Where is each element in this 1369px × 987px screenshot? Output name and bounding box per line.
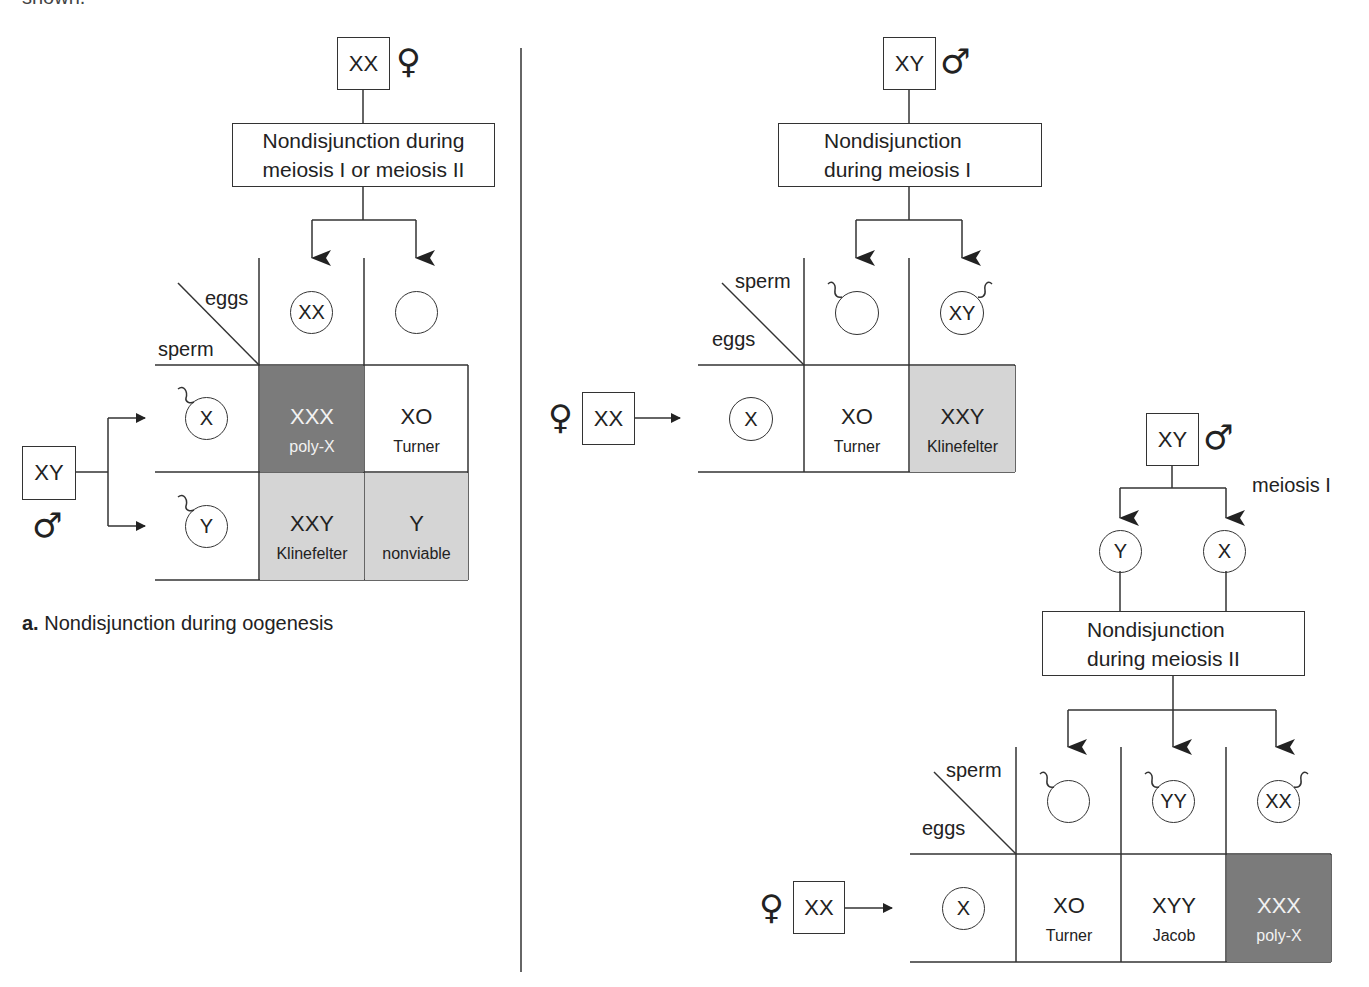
karyotype: XXX bbox=[1227, 893, 1331, 919]
karyotype: XO bbox=[365, 404, 468, 430]
process-box-meiosis-i-or-ii: Nondisjunction during meiosis I or meios… bbox=[232, 123, 495, 187]
caption-letter: a. bbox=[22, 612, 39, 634]
grid-corner-eggs: eggs bbox=[922, 817, 965, 840]
syndrome: poly-X bbox=[1227, 927, 1331, 945]
grid-corner-sperm: sperm bbox=[735, 270, 791, 293]
sperm-gamete-x: X bbox=[185, 397, 228, 440]
process-line-1: Nondisjunction bbox=[1087, 615, 1225, 644]
sperm-gamete-xx: XX bbox=[1257, 780, 1300, 823]
karyotype: XXY bbox=[260, 511, 364, 537]
egg-gamete-empty bbox=[395, 291, 438, 334]
product-y: Y bbox=[1099, 530, 1142, 573]
cell-xxx-poly-x: XXX poly-X bbox=[260, 366, 364, 472]
grid-corner-sperm: sperm bbox=[946, 759, 1002, 782]
process-line-1: Nondisjunction during bbox=[263, 126, 465, 155]
grid-corner-eggs: eggs bbox=[205, 287, 248, 310]
karyotype: XYY bbox=[1122, 893, 1226, 919]
sperm-gamete-empty bbox=[1047, 780, 1090, 823]
father-genotype-box: XY bbox=[22, 446, 76, 500]
mother-genotype-box: XX bbox=[582, 392, 635, 445]
male-symbol-icon: ♂ bbox=[940, 44, 970, 78]
caption-text: Nondisjunction during oogenesis bbox=[44, 612, 333, 634]
mother-genotype-box: XX bbox=[337, 37, 390, 90]
male-symbol-icon: ♂ bbox=[1203, 420, 1233, 454]
sperm-gamete-y: Y bbox=[185, 505, 228, 548]
product-x: X bbox=[1203, 530, 1246, 573]
syndrome: Klinefelter bbox=[260, 545, 364, 563]
sperm-gamete-empty bbox=[835, 291, 879, 335]
male-symbol-icon: ♂ bbox=[32, 508, 62, 542]
cell-xo-turner: XO Turner bbox=[1017, 855, 1121, 962]
karyotype: XO bbox=[805, 404, 909, 430]
karyotype: XXY bbox=[910, 404, 1015, 430]
grid-corner-sperm: sperm bbox=[158, 338, 214, 361]
syndrome: poly-X bbox=[260, 438, 364, 456]
process-line-2: during meiosis II bbox=[1087, 644, 1240, 673]
egg-gamete-x: X bbox=[942, 887, 985, 930]
cell-xo-turner: XO Turner bbox=[365, 366, 468, 472]
syndrome: Turner bbox=[1017, 927, 1121, 945]
cell-y-nonviable: Y nonviable bbox=[365, 473, 468, 580]
cell-xyy-jacob: XYY Jacob bbox=[1122, 855, 1226, 962]
cell-xxy-klinefelter: XXY Klinefelter bbox=[910, 366, 1015, 472]
process-box-meiosis-i: Nondisjunction during meiosis I bbox=[778, 123, 1042, 187]
syndrome: nonviable bbox=[365, 545, 468, 563]
father-genotype-box: XY bbox=[883, 37, 936, 90]
egg-gamete-xx: XX bbox=[290, 291, 333, 334]
karyotype: XXX bbox=[260, 404, 364, 430]
sperm-gamete-yy: YY bbox=[1152, 780, 1195, 823]
father-genotype-box: XY bbox=[1146, 413, 1199, 466]
egg-gamete-x: X bbox=[729, 397, 773, 441]
grid-corner-eggs: eggs bbox=[712, 328, 755, 351]
female-symbol-icon: ♀ bbox=[396, 44, 421, 78]
process-line-2: meiosis I or meiosis II bbox=[263, 155, 465, 184]
sperm-gamete-xy: XY bbox=[940, 291, 984, 335]
syndrome: Turner bbox=[365, 438, 468, 456]
syndrome: Jacob bbox=[1122, 927, 1226, 945]
cell-xo-turner: XO Turner bbox=[805, 366, 909, 472]
diagram-lines bbox=[0, 0, 1369, 987]
mother-genotype-box: XX bbox=[793, 881, 845, 934]
cell-xxx-poly-x: XXX poly-X bbox=[1227, 855, 1331, 962]
female-symbol-icon: ♀ bbox=[548, 400, 573, 434]
syndrome: Klinefelter bbox=[910, 438, 1015, 456]
meiosis-i-label: meiosis I bbox=[1252, 474, 1331, 497]
panel-a-caption: a. Nondisjunction during oogenesis bbox=[22, 612, 333, 635]
karyotype: XO bbox=[1017, 893, 1121, 919]
female-symbol-icon: ♀ bbox=[759, 890, 784, 924]
process-line-2: during meiosis I bbox=[824, 155, 971, 184]
process-box-meiosis-ii: Nondisjunction during meiosis II bbox=[1042, 611, 1305, 676]
cell-xxy-klinefelter: XXY Klinefelter bbox=[260, 473, 364, 580]
process-line-1: Nondisjunction bbox=[824, 126, 962, 155]
karyotype: Y bbox=[365, 511, 468, 537]
syndrome: Turner bbox=[805, 438, 909, 456]
